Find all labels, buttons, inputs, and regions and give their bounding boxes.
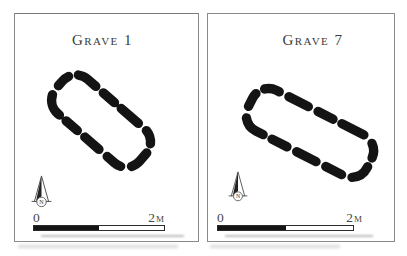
scale-label-2m: 2m	[148, 211, 165, 224]
north-arrow-icon: N	[228, 171, 248, 203]
scale-label-2m: 2m	[346, 211, 363, 224]
grave-1-panel: Grave 1 N 0 2m	[14, 13, 199, 242]
grave-outline-path	[240, 82, 380, 183]
scale-labels: 0 2m	[33, 211, 165, 224]
scale-bar-empty-half	[286, 226, 354, 230]
compass-n-label: N	[39, 199, 44, 205]
scale-labels: 0 2m	[217, 211, 354, 224]
scale-bar: 0 2m	[33, 211, 165, 237]
scale-bar-filled-half	[34, 226, 99, 230]
scale-bar-filled-half	[218, 226, 286, 230]
figure-canvas: Grave 1 N 0 2m Grave 7	[0, 0, 407, 256]
grave-outline	[208, 14, 394, 241]
scale-bar-empty-half	[99, 226, 164, 230]
north-arrow-icon: N	[31, 175, 52, 209]
scan-bleed-mark	[210, 245, 340, 248]
scale-track	[217, 225, 354, 231]
scale-label-zero: 0	[33, 211, 40, 224]
scale-bar-shadow	[41, 235, 184, 237]
scale-track	[33, 225, 165, 231]
scale-label-zero: 0	[217, 211, 224, 224]
scale-bar: 0 2m	[217, 211, 354, 237]
scan-bleed-mark	[18, 245, 178, 248]
grave-outline-path	[44, 68, 157, 175]
grave-7-panel: Grave 7 N 0 2m	[207, 13, 395, 242]
scale-bar-shadow	[225, 235, 373, 237]
